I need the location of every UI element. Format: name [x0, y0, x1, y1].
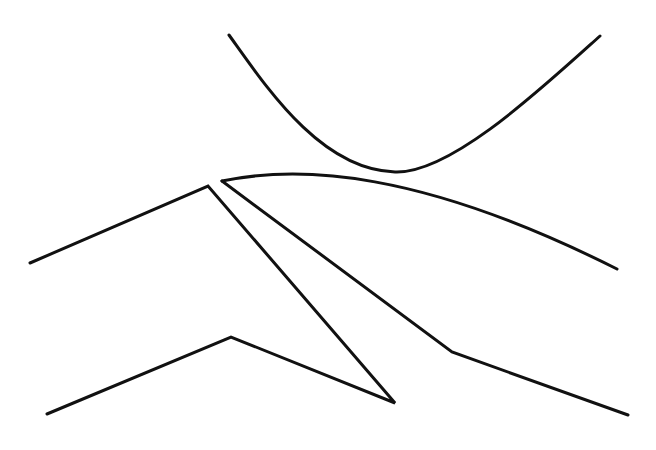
- right-diagonal-polyline: [222, 181, 628, 415]
- sweeping-arc-curve: [222, 174, 617, 269]
- diagram-canvas: [0, 0, 656, 450]
- line-drawing: [0, 0, 656, 450]
- left-peak-polyline: [30, 186, 395, 414]
- upper-parabola-curve: [229, 35, 600, 172]
